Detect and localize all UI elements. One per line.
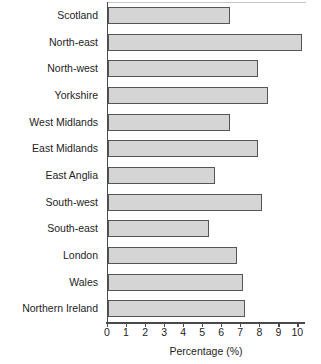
category-label: East Midlands [0, 135, 103, 162]
bar [108, 140, 258, 157]
bar [108, 34, 302, 51]
tick-label: 1 [123, 327, 129, 338]
bar-row [108, 162, 306, 189]
bar [108, 247, 237, 264]
tick-label: 5 [199, 327, 205, 338]
category-label: London [0, 242, 103, 269]
tick-label: 7 [237, 327, 243, 338]
tick-label: 8 [256, 327, 262, 338]
category-label: South-west [0, 189, 103, 216]
bar-row [108, 135, 306, 162]
bar-row [108, 2, 306, 29]
bar-row [108, 242, 306, 269]
bar-chart: ScotlandNorth-eastNorth-westYorkshireWes… [0, 0, 321, 364]
tick-label: 9 [275, 327, 281, 338]
tick-label: 3 [161, 327, 167, 338]
bar-row [108, 29, 306, 56]
bar [108, 60, 258, 77]
category-label: North-west [0, 55, 103, 82]
bar [108, 274, 243, 291]
bar-row [108, 189, 306, 216]
bar-series [108, 2, 306, 322]
tick-label: 6 [218, 327, 224, 338]
category-label: West Midlands [0, 109, 103, 136]
bar-row [108, 215, 306, 242]
bar-row [108, 109, 306, 136]
bar [108, 300, 245, 317]
x-axis-title: Percentage (%) [107, 345, 305, 357]
plot-area [107, 2, 305, 322]
tick-label: 2 [142, 327, 148, 338]
bar-row [108, 82, 306, 109]
category-label: Wales [0, 269, 103, 296]
category-label: Northern Ireland [0, 295, 103, 322]
bar-row [108, 269, 306, 296]
category-label: East Anglia [0, 162, 103, 189]
category-label: South-east [0, 215, 103, 242]
bar [108, 194, 262, 211]
bar [108, 114, 230, 131]
x-axis-tick-labels: 012345678910 [107, 327, 305, 341]
category-label: Scotland [0, 2, 103, 29]
tick-label: 4 [180, 327, 186, 338]
bar-row [108, 295, 306, 322]
category-label: North-east [0, 29, 103, 56]
bar [108, 87, 268, 104]
bar [108, 167, 215, 184]
category-axis: ScotlandNorth-eastNorth-westYorkshireWes… [0, 2, 103, 322]
tick-label: 0 [104, 327, 110, 338]
bar [108, 7, 230, 24]
bar [108, 220, 209, 237]
bar-row [108, 55, 306, 82]
tick-label: 10 [292, 327, 304, 338]
category-label: Yorkshire [0, 82, 103, 109]
